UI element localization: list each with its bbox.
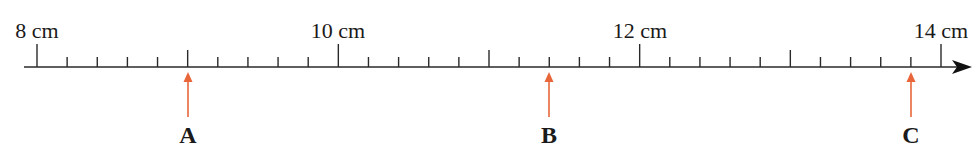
scale-label-10: 10 cm: [311, 18, 365, 43]
point-label-a: A: [179, 122, 197, 148]
point-label-b: B: [541, 122, 557, 148]
scale-label-8: 8 cm: [15, 18, 58, 43]
marker-b: B: [541, 72, 557, 148]
scale-label-12: 12 cm: [613, 18, 667, 43]
scale-label-14: 14 cm: [914, 18, 968, 43]
arrowhead-icon: [545, 72, 554, 82]
point-label-c: C: [902, 122, 919, 148]
marker-a: A: [179, 72, 197, 148]
scale-labels: 8 cm 10 cm 12 cm 14 cm: [15, 18, 968, 43]
tick-marks: [37, 44, 941, 67]
ruler-number-line: 8 cm 10 cm 12 cm 14 cm A B C: [0, 0, 978, 154]
marker-c: C: [902, 72, 919, 148]
arrowhead-icon: [907, 72, 916, 82]
point-markers: A B C: [179, 72, 919, 148]
arrowhead-icon: [184, 72, 193, 82]
